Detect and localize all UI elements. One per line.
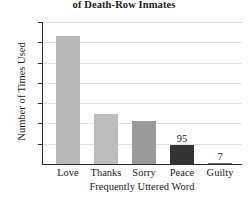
- chart-title: of Death-Row Inmates: [0, 0, 248, 11]
- tickmark-300: [38, 103, 43, 104]
- plot-area: 700 600 500 400 300 200 100 95: [42, 22, 242, 164]
- bar-peace: 95: [170, 145, 194, 164]
- x-axis-line: [42, 164, 242, 165]
- tickmark-700: [38, 22, 43, 23]
- bar-chart-figure: of Death-Row Inmates Number of Times Use…: [0, 0, 248, 207]
- bar-sorry: [132, 121, 156, 164]
- bar-guilty: 7: [208, 163, 232, 164]
- tickmark-100: [38, 144, 43, 145]
- tickmark-200: [38, 123, 43, 124]
- bar-thanks: [94, 114, 118, 164]
- y-axis-line: [42, 22, 43, 164]
- bar-value-guilty: 7: [217, 151, 222, 162]
- gridline-700: [43, 22, 242, 23]
- x-axis-label: Frequently Uttered Word: [42, 181, 242, 193]
- bar-love: [56, 36, 80, 164]
- y-axis-label: Number of Times Used: [16, 17, 27, 167]
- bar-value-peace: 95: [177, 133, 188, 144]
- tickmark-500: [38, 63, 43, 64]
- tickmark-400: [38, 83, 43, 84]
- tickmark-600: [38, 42, 43, 43]
- x-tick-label-guilty: Guilty: [196, 167, 244, 179]
